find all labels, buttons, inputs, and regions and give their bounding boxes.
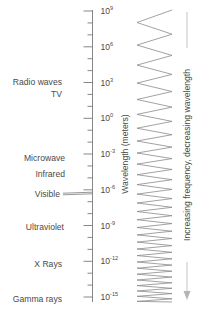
band-label: Radio waves (13, 77, 62, 87)
visible-pointer-line (63, 194, 93, 195)
spectrum-band-labels: Radio wavesTVMicrowaveInfraredVisibleUlt… (13, 77, 93, 304)
arrow-head-icon (184, 291, 191, 300)
wavelength-tick-labels: 10910610310010-310-610-910-1210-15 (101, 5, 119, 302)
band-label: Ultraviolet (26, 222, 65, 232)
band-label: TV (51, 89, 62, 99)
tick-label: 10-12 (101, 255, 119, 266)
band-label: Infrared (35, 169, 65, 179)
tick-label: 10-3 (101, 148, 116, 159)
tick-label: 10-6 (101, 184, 116, 195)
band-label: Microwave (24, 153, 65, 163)
wavelength-axis (84, 10, 93, 302)
axis-title: Wavelength (meters) (120, 114, 130, 194)
tick-label: 103 (101, 77, 114, 88)
band-label: Visible (35, 189, 60, 199)
visible-pointer-line (63, 192, 93, 193)
direction-arrow: Increasing frequency, decreasing wavelen… (182, 12, 192, 300)
tick-label: 10-15 (101, 291, 119, 302)
tick-label: 106 (101, 41, 114, 52)
tick-label: 109 (101, 5, 114, 16)
tick-label: 100 (101, 112, 114, 123)
tick-label: 10-9 (101, 220, 116, 231)
em-spectrum-diagram: 10910610310010-310-610-910-1210-15 Radio… (0, 0, 204, 309)
band-label: X Rays (34, 259, 62, 269)
wave-zigzag (137, 10, 172, 302)
band-label: Gamma rays (13, 294, 62, 304)
arrow-label: Increasing frequency, decreasing wavelen… (182, 69, 192, 241)
